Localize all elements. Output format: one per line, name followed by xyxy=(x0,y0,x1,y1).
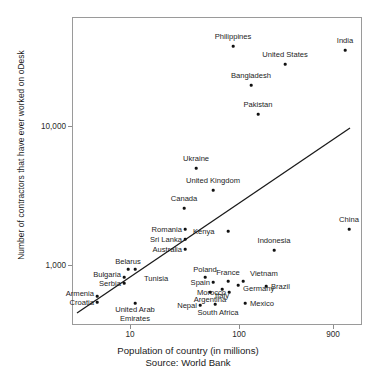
label-nepal: Nepal xyxy=(160,301,197,310)
point-bangladesh xyxy=(250,84,253,87)
y-tick-label-1000: 1,000 xyxy=(22,261,66,270)
y-tick-label-10000: 10,000 xyxy=(22,122,66,131)
point-india xyxy=(344,49,347,52)
point-morocco xyxy=(228,291,231,294)
point-philippines xyxy=(232,45,235,48)
point-china xyxy=(348,228,351,231)
point-sri-lanka xyxy=(184,238,187,241)
point-armenia xyxy=(96,295,99,298)
point-romania xyxy=(184,228,187,231)
label-south-africa: South Africa xyxy=(198,308,239,317)
point-argentina xyxy=(209,291,212,294)
point-nepal xyxy=(199,304,202,307)
label-kenya: Kenya xyxy=(193,227,215,236)
label-australia: Australia xyxy=(120,245,182,254)
point-australia xyxy=(184,248,187,251)
label-romania: Romania xyxy=(120,225,182,234)
x-tick-mark-100 xyxy=(239,325,240,329)
label-armenia: Armenia xyxy=(34,289,94,298)
label-philippines: Philippines xyxy=(215,32,252,41)
point-spain xyxy=(212,281,215,284)
point-south-africa xyxy=(214,303,217,306)
scatter-chart: Number of contractors that have ever wor… xyxy=(0,0,376,387)
x-axis-title: Population of country (in millions) xyxy=(0,345,376,357)
label-tunisia: Tunisia xyxy=(144,274,168,283)
point-united-kingdom xyxy=(212,189,215,192)
label-france: France xyxy=(216,268,240,277)
x-tick-mark-900 xyxy=(333,325,334,329)
point-united-arab-emirates xyxy=(134,302,137,305)
label-pakistan: Pakistan xyxy=(243,100,272,109)
x-tick-mark-10 xyxy=(130,325,131,329)
point-belarus xyxy=(127,268,130,271)
point-bulgaria xyxy=(123,276,126,279)
point-tunisia xyxy=(134,268,137,271)
point-united-states xyxy=(284,63,287,66)
label-argentina: Argentina xyxy=(194,295,227,304)
point-mexico xyxy=(244,302,247,305)
point-croatia xyxy=(96,301,99,304)
label-belarus: Belarus xyxy=(115,257,141,266)
label-spain: Spain xyxy=(180,278,210,287)
label-bulgaria: Bulgaria xyxy=(63,270,121,279)
point-kenya xyxy=(227,230,230,233)
label-canada: Canada xyxy=(171,194,198,203)
label-indonesia: Indonesia xyxy=(258,236,291,245)
point-indonesia xyxy=(273,249,276,252)
label-germany: Germany xyxy=(243,284,274,293)
point-brazil xyxy=(265,285,268,288)
point-ukraine xyxy=(195,167,198,170)
x-tick-label-100: 100 xyxy=(232,330,246,339)
point-germany xyxy=(237,284,240,287)
point-france xyxy=(227,280,230,283)
label-india: India xyxy=(337,36,353,45)
label-vietnam: Vietnam xyxy=(250,269,278,278)
point-vietnam xyxy=(242,280,245,283)
label-mexico: Mexico xyxy=(250,299,274,308)
label-uae-line2: Emirates xyxy=(115,315,155,324)
label-china: China xyxy=(339,215,359,224)
point-serbia xyxy=(123,282,126,285)
label-sri-lanka: Sri Lanka xyxy=(120,235,182,244)
label-poland: Poland xyxy=(193,265,217,274)
point-pakistan xyxy=(257,113,260,116)
x-tick-label-10: 10 xyxy=(125,330,134,339)
label-united-states: United States xyxy=(262,50,308,59)
label-ukraine: Ukraine xyxy=(183,154,209,163)
x-axis-source: Source: World Bank xyxy=(0,357,376,369)
label-brazil: Brazil xyxy=(271,282,290,291)
label-united-kingdom: United Kingdom xyxy=(186,176,240,185)
label-united-arab-emirates: United Arab Emirates xyxy=(115,306,155,323)
x-tick-label-900: 900 xyxy=(326,330,340,339)
label-bangladesh: Bangladesh xyxy=(231,71,271,80)
label-croatia: Croatia xyxy=(34,298,94,307)
point-canada xyxy=(183,207,186,210)
label-serbia: Serbia xyxy=(63,279,121,288)
